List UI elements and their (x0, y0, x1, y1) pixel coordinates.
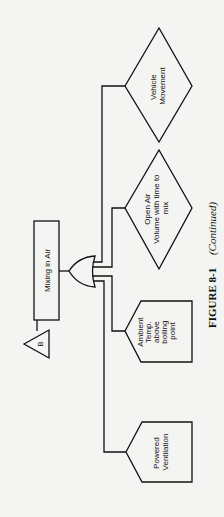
fault-tree-diagram: Mixing in Air B Vehicle Movement Open Ai… (0, 0, 224, 517)
or-gate-icon (69, 256, 95, 287)
figure-caption: FIGURE 8-1 (Continued) (206, 202, 219, 328)
event-label-ambient-temp: Ambient Temp. above boiling point (136, 315, 177, 347)
top-event-label: Mixing in Air (43, 249, 52, 292)
connector-open-air (92, 208, 125, 267)
event-label-powered-ventilation: Powered Ventilation (152, 434, 170, 471)
connector-ambient-temp (92, 276, 125, 331)
connector-vehicle-movement (93, 86, 125, 262)
transfer-label: B (36, 341, 45, 346)
event-label-open-air: Open Air Volume with time to mix (143, 172, 170, 244)
connector-powered-ventilation (93, 281, 126, 452)
event-label-vehicle-movement: Vehicle Movement (149, 67, 167, 105)
